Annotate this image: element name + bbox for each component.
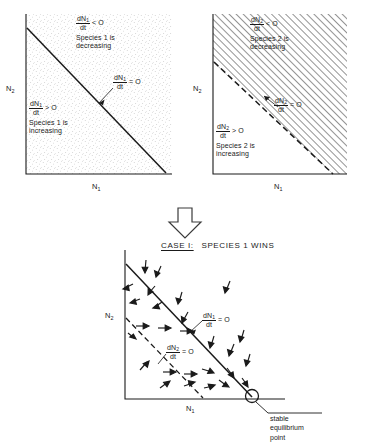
vector-arrow	[208, 336, 214, 348]
panel-species-2-isocline: dN2 dt < O Species 2 is decreasing dN2 d…	[186, 0, 373, 205]
panel-1-isocline-denominator: dt	[113, 83, 127, 92]
panel-1-x-axis-label: N1	[92, 182, 100, 191]
vector-arrow	[136, 323, 149, 329]
vector-arrow	[130, 299, 140, 304]
vector-arrow	[184, 371, 197, 377]
panel-3-isocline-1-numerator: dN1	[202, 312, 216, 321]
panel-2-upper-region-label: dN2 dt < O Species 2 is decreasing	[250, 16, 289, 52]
panel-1-lower-denominator: dt	[29, 109, 43, 118]
panel-3-isocline-2-numerator: dN2	[166, 344, 180, 353]
vector-arrow	[128, 333, 136, 339]
vector-arrow	[202, 368, 214, 373]
panel-1-lower-text-line2: increasing	[29, 127, 68, 136]
vector-arrow	[160, 381, 170, 388]
panel-1-isocline-relation: = O	[127, 78, 141, 87]
vector-arrow	[155, 266, 161, 277]
panel-2-upper-denominator: dt	[250, 25, 264, 34]
panel-1-isocline-label: dN1 dt = O	[113, 74, 141, 92]
case-title-case: CASE I:	[161, 241, 194, 250]
panel-1-upper-denominator: dt	[76, 24, 90, 33]
panel-2-lower-text-line1: Species 2 is	[216, 142, 255, 151]
panel-3-isocline-1-denominator: dt	[202, 321, 216, 330]
panel-2-lower-relation: > O	[230, 127, 244, 136]
vector-arrow	[140, 361, 149, 370]
panel-1-upper-relation: < O	[90, 19, 104, 28]
panel-2-lower-region-label: dN2 dt > O Species 2 is increasing	[216, 123, 255, 159]
equilibrium-note-line2: equilibrium	[270, 423, 304, 432]
vector-arrow	[242, 378, 248, 387]
case-title-text: SPECIES 1 WINS	[201, 241, 274, 250]
panel-1-lower-relation: > O	[43, 104, 57, 113]
panel-2-lower-denominator: dt	[216, 132, 230, 141]
panel-3-isocline-1-relation: = O	[216, 316, 230, 325]
vector-arrow	[142, 260, 148, 273]
panel-1-upper-region-label: dN1 dt < O Species 1 is decreasing	[76, 15, 115, 51]
vector-arrow	[163, 369, 176, 375]
panel-2-isocline-denominator: dt	[274, 106, 288, 115]
vector-arrow	[223, 281, 230, 293]
panel-3-isocline-1-label: dN1 dt = O	[202, 312, 230, 330]
panel-1-upper-text-line2: decreasing	[76, 42, 115, 51]
vector-arrow	[228, 344, 234, 356]
panel-1-isocline-fraction: dN1 dt	[113, 74, 127, 92]
vector-arrow	[244, 354, 250, 366]
vector-arrow	[204, 384, 215, 389]
panel-3-isocline-1-fraction: dN1 dt	[202, 312, 216, 330]
vector-arrow	[176, 292, 182, 304]
vector-arrow	[158, 325, 171, 331]
equilibrium-note-line3: point	[270, 433, 304, 442]
panel-1-upper-fraction: dN1 dt	[76, 15, 90, 33]
panel-1-upper-text-line1: Species 1 is	[76, 34, 115, 43]
panel-2-isocline-numerator: dN2	[274, 97, 288, 106]
down-arrow-icon	[160, 206, 210, 240]
vector-arrow	[153, 302, 162, 309]
panel-species-1-isocline: dN1 dt < O Species 1 is decreasing dN1 d…	[0, 0, 185, 205]
vector-arrow	[181, 312, 188, 323]
panel-2-isocline-fraction: dN2 dt	[274, 97, 288, 115]
panel-2-upper-fraction: dN2 dt	[250, 16, 264, 34]
panel-3-graphic	[100, 236, 373, 448]
panel-1-lower-fraction: dN1 dt	[29, 100, 43, 118]
panel-1-isocline-numerator: dN1	[113, 74, 127, 83]
panel-3-y-axis-label: N2	[105, 311, 113, 320]
vector-arrow	[238, 330, 244, 342]
stable-equilibrium-note: stable equilibrium point	[270, 414, 304, 442]
panel-case-1-result: CASE I: SPECIES 1 WINS dN1 dt = O dN2 dt…	[100, 236, 373, 448]
panel-2-isocline-label: dN2 dt = O	[274, 97, 302, 115]
panel-2-isocline-relation: = O	[288, 101, 302, 110]
equilibrium-note-line1: stable	[270, 414, 304, 423]
panel-1-lower-numerator: dN1	[29, 100, 43, 109]
panel-2-upper-text-line2: decreasing	[250, 43, 289, 52]
equilibrium-note-leader	[256, 402, 322, 413]
vector-arrow	[184, 381, 195, 386]
case-title: CASE I: SPECIES 1 WINS	[161, 241, 274, 250]
vector-arrow	[227, 368, 234, 378]
panel-2-x-axis-label: N1	[274, 182, 282, 191]
panel-1-upper-numerator: dN1	[76, 15, 90, 24]
panel-2-upper-numerator: dN2	[250, 16, 264, 25]
panel-3-isocline-2-denominator: dt	[166, 353, 180, 362]
panel-3-vector-field	[123, 260, 250, 389]
panel-1-lower-text-line1: Species 1 is	[29, 119, 68, 128]
panel-2-upper-relation: < O	[264, 20, 278, 29]
vector-arrow	[219, 380, 229, 387]
panel-2-upper-text-line1: Species 2 is	[250, 35, 289, 44]
panel-2-lower-fraction: dN2 dt	[216, 123, 230, 141]
panel-2-lower-numerator: dN2	[216, 123, 230, 132]
transition-down-arrow	[160, 206, 210, 240]
panel-1-lower-region-label: dN1 dt > O Species 1 is increasing	[29, 100, 68, 136]
panel-1-y-axis-label: N2	[6, 84, 14, 93]
panel-3-isocline-2-relation: = O	[180, 348, 194, 357]
panel-2-y-axis-label: N2	[193, 84, 201, 93]
panel-3-x-axis-label: N1	[186, 404, 194, 413]
panel-3-isocline-2-label: dN2 dt = O	[166, 344, 194, 362]
panel-3-isocline-2-fraction: dN2 dt	[166, 344, 180, 362]
panel-2-lower-text-line2: increasing	[216, 150, 255, 159]
